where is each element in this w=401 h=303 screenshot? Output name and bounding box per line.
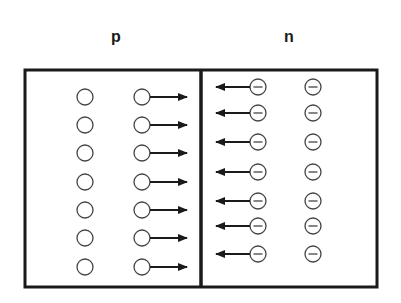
pn-junction-diagram	[0, 0, 401, 303]
hole-icon	[134, 89, 150, 105]
hole-icon	[77, 174, 93, 190]
hole-icon	[77, 117, 93, 133]
hole-icon	[77, 230, 93, 246]
hole-icon	[134, 145, 150, 161]
hole-icon	[134, 259, 150, 275]
hole-icon	[77, 89, 93, 105]
hole-icon	[134, 230, 150, 246]
hole-icon	[77, 259, 93, 275]
hole-icon	[134, 202, 150, 218]
hole-icon	[134, 174, 150, 190]
hole-icon	[77, 202, 93, 218]
hole-icon	[77, 145, 93, 161]
n-region	[216, 79, 321, 262]
p-region	[77, 89, 187, 275]
hole-icon	[134, 117, 150, 133]
